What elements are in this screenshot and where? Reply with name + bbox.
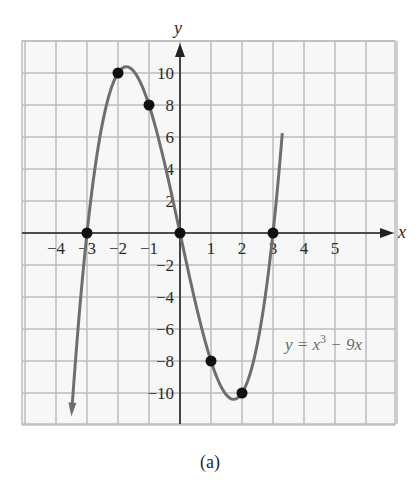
- svg-text:2: 2: [238, 239, 247, 258]
- data-point: [82, 228, 93, 239]
- cubic-function-chart: −4−3−2−112345108642−2−4−6−8−10 y x y = x…: [0, 0, 419, 485]
- figure-caption: (a): [200, 452, 220, 473]
- svg-text:5: 5: [331, 239, 340, 258]
- svg-text:−6: −6: [156, 320, 174, 339]
- svg-text:−4: −4: [47, 239, 66, 258]
- data-point: [175, 228, 186, 239]
- svg-text:4: 4: [300, 239, 309, 258]
- svg-text:−10: −10: [147, 384, 174, 403]
- svg-text:−8: −8: [156, 352, 174, 371]
- svg-text:8: 8: [166, 96, 175, 115]
- data-point: [237, 388, 248, 399]
- svg-text:1: 1: [207, 239, 216, 258]
- data-point: [113, 68, 124, 79]
- svg-text:−2: −2: [109, 239, 127, 258]
- svg-text:−2: −2: [156, 256, 174, 275]
- data-point: [206, 356, 217, 367]
- x-axis-label: x: [397, 222, 406, 242]
- svg-text:−4: −4: [156, 288, 175, 307]
- data-point: [144, 100, 155, 111]
- data-point: [268, 228, 279, 239]
- svg-text:10: 10: [157, 64, 174, 83]
- svg-text:6: 6: [166, 128, 175, 147]
- y-axis-label: y: [172, 18, 182, 38]
